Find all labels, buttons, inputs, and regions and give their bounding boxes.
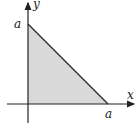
diagram-canvas: y x a a	[0, 0, 140, 130]
x-intercept-label: a	[105, 107, 112, 121]
y-axis-label: y	[32, 0, 40, 11]
x-axis-label: x	[127, 88, 134, 102]
y-intercept-label: a	[14, 17, 21, 31]
